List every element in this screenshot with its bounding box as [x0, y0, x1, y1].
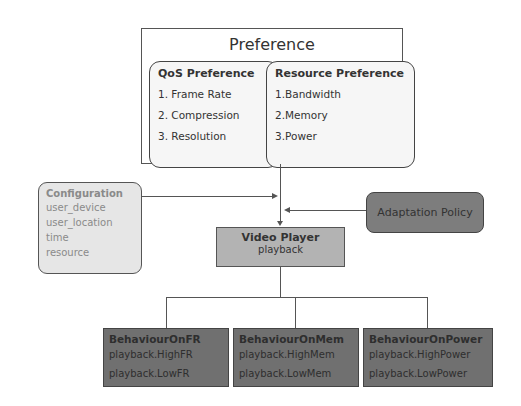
- behaviour-on-mem-box: BehaviourOnMem playback.HighMem playback…: [233, 328, 359, 387]
- config-item: user_device: [46, 200, 134, 215]
- behaviour-item: playback.HighFR: [109, 345, 223, 364]
- behaviour-title: BehaviourOnPower: [369, 333, 487, 345]
- config-item: time: [46, 230, 134, 245]
- behaviour-title: BehaviourOnFR: [109, 333, 223, 345]
- resource-item: 3.Power: [275, 126, 406, 147]
- config-item: resource: [46, 245, 134, 260]
- behaviour-item: playback.LowFR: [109, 364, 223, 383]
- qos-item: 2. Compression: [158, 105, 270, 126]
- connector-line: [295, 297, 296, 328]
- behaviour-item: playback.HighMem: [239, 345, 353, 364]
- video-player-title: Video Player: [217, 231, 344, 244]
- resource-preference-box: Resource Preference 1.Bandwidth 2.Memory…: [266, 61, 415, 168]
- connector-line: [427, 297, 428, 328]
- connector-line: [166, 297, 428, 298]
- connector-line: [166, 297, 167, 328]
- qos-preference-box: QoS Preference 1. Frame Rate 2. Compress…: [149, 61, 279, 168]
- configuration-title: Configuration: [46, 188, 134, 199]
- behaviour-on-power-box: BehaviourOnPower playback.HighPower play…: [363, 328, 493, 387]
- behaviour-on-fr-box: BehaviourOnFR playback.HighFR playback.L…: [103, 328, 229, 387]
- behaviour-title: BehaviourOnMem: [239, 333, 353, 345]
- arrow-head-icon: [272, 193, 278, 199]
- config-item: user_location: [46, 215, 134, 230]
- behaviour-item: playback.LowMem: [239, 364, 353, 383]
- configuration-box: Configuration user_device user_location …: [38, 182, 142, 274]
- preference-box: Preference QoS Preference 1. Frame Rate …: [141, 28, 403, 164]
- adaptation-policy-box: Adaptation Policy: [366, 192, 484, 233]
- qos-item: 1. Frame Rate: [158, 84, 270, 105]
- connector-line: [142, 196, 273, 197]
- preference-title: Preference: [142, 35, 402, 54]
- video-player-box: Video Player playback: [216, 227, 345, 267]
- qos-item: 3. Resolution: [158, 126, 270, 147]
- qos-preference-title: QoS Preference: [158, 67, 270, 80]
- arrow-head-icon: [277, 221, 283, 226]
- connector-line: [280, 164, 281, 223]
- resource-item: 1.Bandwidth: [275, 84, 406, 105]
- adaptation-policy-label: Adaptation Policy: [377, 206, 472, 219]
- resource-item: 2.Memory: [275, 105, 406, 126]
- arrow-head-icon: [284, 207, 290, 213]
- connector-line: [280, 267, 281, 297]
- connector-line: [290, 210, 366, 211]
- video-player-subtitle: playback: [217, 244, 344, 255]
- behaviour-item: playback.LowPower: [369, 364, 487, 383]
- behaviour-item: playback.HighPower: [369, 345, 487, 364]
- resource-preference-title: Resource Preference: [275, 67, 406, 80]
